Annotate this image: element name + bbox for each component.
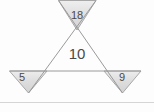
geometry-diagram: 18 10 5 9 xyxy=(0,0,154,112)
geometry-figure-container: 18 10 5 9 xyxy=(0,0,154,112)
angle-label-center: 10 xyxy=(69,45,86,62)
angle-label-bottom-right: 9 xyxy=(119,71,125,83)
angle-label-bottom-left: 5 xyxy=(19,71,25,83)
angle-label-top: 18 xyxy=(71,9,83,21)
